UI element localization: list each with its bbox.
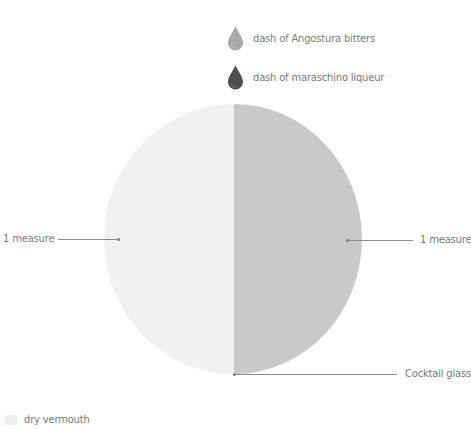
legend-label: dry vermouth [24,414,90,426]
glass-leader [235,374,397,375]
left-half-dry-vermouth [104,104,234,374]
left-measure-dot [117,238,120,241]
left-measure-label: 1 measure [3,233,54,245]
left-measure-leader [58,239,118,240]
glass-label: Cocktail glass [405,368,471,380]
right-measure-leader [348,240,413,241]
right-measure-label: 1 measure [420,234,471,246]
right-half-ingredient [234,104,362,374]
legend: dry vermouth [5,414,125,426]
legend-swatch [5,415,17,425]
